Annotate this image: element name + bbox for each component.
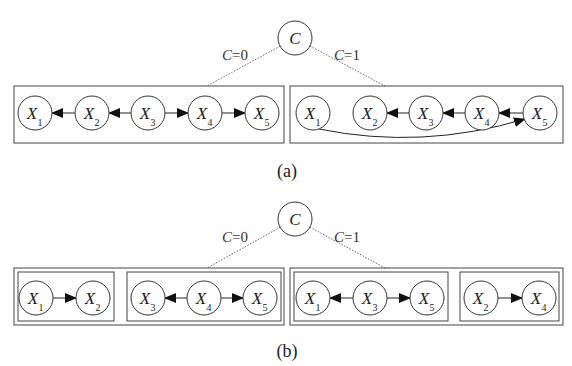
c1-network: X1X3X5X2X4 bbox=[290, 268, 563, 325]
node-subscript: 4 bbox=[485, 117, 490, 128]
branch-label-c0: C=0 bbox=[222, 229, 248, 245]
node-subscript: 2 bbox=[96, 302, 101, 313]
node-variable: X bbox=[83, 104, 95, 123]
node-subscript: 1 bbox=[39, 302, 44, 313]
node-subscript: 3 bbox=[429, 117, 434, 128]
node-variable: X bbox=[139, 289, 151, 308]
node-variable: X bbox=[304, 289, 316, 308]
node-x1: X1 bbox=[296, 96, 330, 130]
node-subscript: 5 bbox=[430, 302, 435, 313]
node-variable: X bbox=[361, 104, 373, 123]
node-variable: X bbox=[196, 104, 208, 123]
node-x2: X2 bbox=[76, 281, 110, 315]
node-x3: X3 bbox=[409, 96, 443, 130]
node-x4: X4 bbox=[522, 281, 556, 315]
node-variable: X bbox=[531, 104, 543, 123]
branch-label-value: =0 bbox=[232, 47, 248, 63]
node-variable: X bbox=[417, 104, 429, 123]
node-subscript: 3 bbox=[373, 302, 378, 313]
node-x4: X4 bbox=[187, 281, 221, 315]
node-subscript: 1 bbox=[316, 302, 321, 313]
node-variable: X bbox=[361, 289, 373, 308]
branch-label-c0: C=0 bbox=[222, 47, 248, 63]
node-subscript: 3 bbox=[151, 117, 156, 128]
branch-label-c1: C=1 bbox=[334, 47, 360, 63]
branch-label-c1: C=1 bbox=[334, 229, 360, 245]
node-variable: X bbox=[418, 289, 430, 308]
node-variable: X bbox=[530, 289, 542, 308]
node-variable: X bbox=[195, 289, 207, 308]
caption-a: (a) bbox=[277, 161, 297, 182]
node-x1: X1 bbox=[19, 281, 53, 315]
c0-network: X1X2X3X4X5 bbox=[14, 86, 284, 143]
node-variable: X bbox=[139, 104, 151, 123]
node-x4: X4 bbox=[188, 96, 222, 130]
caption-b: (b) bbox=[277, 341, 298, 362]
branch-label-value: =1 bbox=[344, 229, 360, 245]
root-node-c: C bbox=[278, 21, 312, 55]
node-subscript: 1 bbox=[38, 117, 43, 128]
node-variable: X bbox=[473, 104, 485, 123]
node-x5: X5 bbox=[523, 96, 557, 130]
node-subscript: 5 bbox=[265, 117, 270, 128]
node-x1: X1 bbox=[296, 281, 330, 315]
node-subscript: 1 bbox=[316, 117, 321, 128]
panel-b: C=0C=1CX1X2X3X4X5X1X3X5X2X4(b) bbox=[14, 202, 563, 362]
node-variable: X bbox=[251, 289, 263, 308]
node-x2: X2 bbox=[75, 96, 109, 130]
node-subscript: 5 bbox=[543, 117, 548, 128]
panel-a: C=0C=1CX1X2X3X4X5X1X2X3X4X5(a) bbox=[14, 21, 563, 182]
node-subscript: 3 bbox=[151, 302, 156, 313]
node-subscript: 4 bbox=[207, 302, 212, 313]
node-subscript: 5 bbox=[263, 302, 268, 313]
node-variable: X bbox=[253, 104, 265, 123]
node-x5: X5 bbox=[410, 281, 444, 315]
node-x2: X2 bbox=[464, 281, 498, 315]
node-variable: X bbox=[84, 289, 96, 308]
node-variable: X bbox=[26, 104, 38, 123]
node-variable: X bbox=[472, 289, 484, 308]
node-variable: X bbox=[27, 289, 39, 308]
node-subscript: 2 bbox=[373, 117, 378, 128]
panels-layer: C=0C=1CX1X2X3X4X5X1X2X3X4X5(a)C=0C=1CX1X… bbox=[14, 21, 563, 362]
figure-canvas: C=0C=1CX1X2X3X4X5X1X2X3X4X5(a)C=0C=1CX1X… bbox=[0, 0, 572, 366]
node-x5: X5 bbox=[243, 281, 277, 315]
node-x1: X1 bbox=[18, 96, 52, 130]
node-x3: X3 bbox=[131, 96, 165, 130]
branch-label-value: =0 bbox=[232, 229, 248, 245]
node-variable: C bbox=[289, 210, 301, 229]
node-subscript: 4 bbox=[542, 302, 547, 313]
node-x5: X5 bbox=[245, 96, 279, 130]
node-x3: X3 bbox=[131, 281, 165, 315]
node-subscript: 4 bbox=[208, 117, 213, 128]
c1-network: X1X2X3X4X5 bbox=[290, 86, 563, 143]
node-x4: X4 bbox=[465, 96, 499, 130]
node-variable: C bbox=[289, 29, 301, 48]
root-node-c: C bbox=[278, 202, 312, 236]
node-x3: X3 bbox=[353, 281, 387, 315]
node-x2: X2 bbox=[353, 96, 387, 130]
c0-network: X1X2X3X4X5 bbox=[14, 268, 284, 325]
node-subscript: 2 bbox=[95, 117, 100, 128]
branch-label-value: =1 bbox=[344, 47, 360, 63]
node-subscript: 2 bbox=[484, 302, 489, 313]
node-variable: X bbox=[304, 104, 316, 123]
